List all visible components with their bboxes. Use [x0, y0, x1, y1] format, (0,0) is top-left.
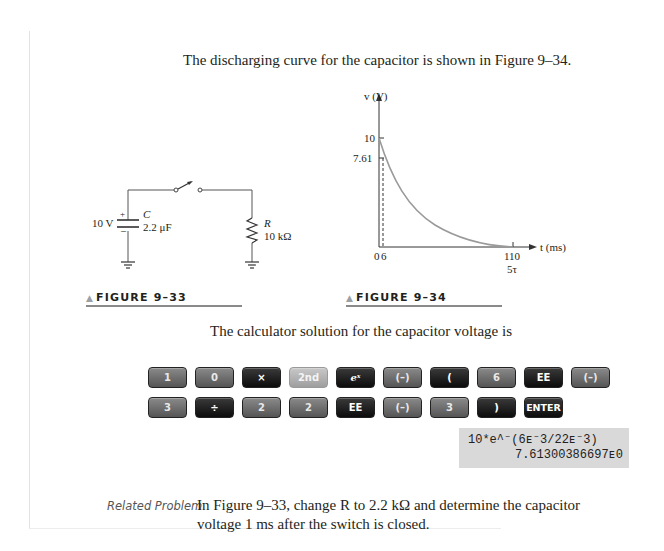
related-problem-text: In Figure 9–33, change R to 2.2 kΩ and d… [197, 496, 617, 534]
key-2nd[interactable]: 2nd [289, 367, 328, 388]
key-ee[interactable]: EE [336, 397, 375, 418]
plus-sign: + [120, 209, 125, 219]
intro-paragraph: The discharging curve for the capacitor … [183, 52, 571, 69]
key-open-paren[interactable]: ( [430, 367, 469, 388]
key-6[interactable]: 6 [477, 367, 516, 388]
calculator-intro: The calculator solution for the capacito… [210, 323, 512, 340]
resistor-symbol [247, 218, 257, 243]
key-3[interactable]: 3 [148, 397, 187, 418]
y-tick-7-61: 7.61 [353, 152, 372, 164]
resistor-label: R [263, 217, 271, 229]
resistor-value: 10 kΩ [264, 230, 291, 242]
discharge-curve-line [379, 138, 513, 247]
x-tick-5tau: 5τ [507, 263, 518, 275]
key-close-paren[interactable]: ) [477, 397, 516, 418]
x-axis-label: t (ms) [540, 241, 566, 254]
ground-icon [121, 262, 135, 268]
switch-symbol [174, 181, 202, 192]
x-tick-110: 110 [504, 250, 521, 262]
circuit-diagram: + – 10 V C 2.2 μF R 10 kΩ [60, 170, 310, 280]
capacitor-value: 2.2 μF [143, 221, 172, 233]
x-tick-0: 0 [374, 250, 380, 262]
key-multiply[interactable]: × [242, 367, 281, 388]
key-divide[interactable]: ÷ [195, 397, 234, 418]
discharge-curve-chart: v (V) 10 7.61 0 6 110 5τ t (ms) [340, 80, 580, 280]
figure-34-rule [346, 305, 502, 307]
key-1[interactable]: 1 [148, 367, 187, 388]
key-negative[interactable]: (–) [383, 397, 422, 418]
key-negative[interactable]: (–) [571, 367, 610, 388]
page-left-border [29, 31, 30, 528]
minus-sign: – [120, 225, 127, 236]
screen-result: 7.61300386697ᴇ0 [515, 448, 623, 462]
capacitor-label: C [143, 208, 151, 220]
ground-icon [245, 262, 259, 268]
figure-33-caption: ▲FIGURE 9–33 [86, 291, 187, 304]
y-tick-10: 10 [364, 132, 376, 144]
key-0[interactable]: 0 [195, 367, 234, 388]
key-2[interactable]: 2 [289, 397, 328, 418]
key-negative[interactable]: (–) [383, 367, 422, 388]
key-2[interactable]: 2 [242, 397, 281, 418]
key-e-power-x[interactable]: eˣ [336, 367, 375, 388]
figure-34-caption: ▲FIGURE 9–34 [346, 291, 447, 304]
source-voltage-label: 10 V [92, 217, 114, 229]
x-tick-6: 6 [381, 250, 387, 262]
y-axis-label: v (V) [364, 90, 388, 103]
screen-expression: 10*e^⁻(6ᴇ⁻3/22ᴇ⁻3) [468, 432, 598, 447]
key-ee[interactable]: EE [524, 367, 563, 388]
key-3[interactable]: 3 [430, 397, 469, 418]
figure-33-rule [86, 305, 242, 307]
key-enter[interactable]: ENTER [524, 397, 563, 418]
related-problem-label: Related Problem [107, 499, 202, 513]
calculator-screen: 10*e^⁻(6ᴇ⁻3/22ᴇ⁻3) 7.61300386697ᴇ0 [459, 428, 629, 468]
